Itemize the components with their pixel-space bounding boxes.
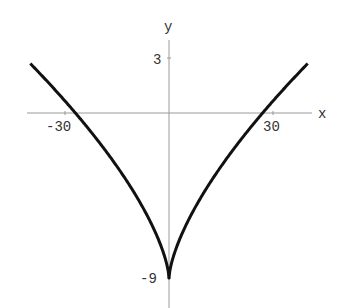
x-tick-label-30: 30 xyxy=(263,119,280,135)
x-axis-label: x xyxy=(318,106,326,122)
y-axis-label: y xyxy=(164,19,172,35)
x-tick-label-neg30: -30 xyxy=(46,119,71,135)
y-tick-label-3: 3 xyxy=(153,52,161,68)
plot-area: -30 30 3 -9 x y xyxy=(0,0,350,308)
y-tick-label-neg9: -9 xyxy=(140,271,157,287)
